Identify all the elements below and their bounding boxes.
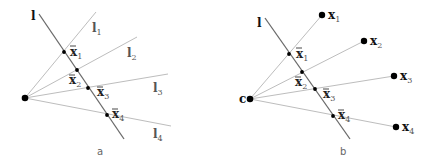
endpoint-x4 xyxy=(393,124,399,130)
svg-text:x4: x4 xyxy=(112,107,124,123)
endpoint-x3 xyxy=(391,73,397,79)
point-label-1: x1 xyxy=(70,45,82,61)
point-label-2: x2 xyxy=(295,75,307,91)
intersection-point-3 xyxy=(86,86,90,90)
center-point xyxy=(22,95,29,102)
svg-text:x3: x3 xyxy=(323,87,335,103)
point-label-4: x4 xyxy=(338,108,350,124)
ray-label-3: l3 xyxy=(153,81,163,97)
intersection-point-4 xyxy=(105,113,109,117)
center-label-c: c xyxy=(239,92,246,106)
ray-label-4: l4 xyxy=(153,127,163,143)
point-label-4: x4 xyxy=(112,107,124,123)
svg-text:x3: x3 xyxy=(97,85,109,101)
point-label-2: x2 xyxy=(69,73,81,89)
svg-text:x2: x2 xyxy=(295,75,307,91)
intersection-point-1 xyxy=(287,52,291,56)
svg-text:x4: x4 xyxy=(338,108,350,124)
intersection-point-2 xyxy=(300,70,304,74)
point-label-1: x1 xyxy=(296,47,308,63)
svg-text:x2: x2 xyxy=(69,73,81,89)
panel-a: l l1 l2 l3 l4 x1 x2 x3 x4 a xyxy=(22,9,171,157)
endpoint-x1 xyxy=(319,12,325,18)
endpoint-label-3: x3 xyxy=(400,69,412,85)
ray-l4 xyxy=(25,98,171,126)
point-label-3: x3 xyxy=(97,85,109,101)
ray-label-2: l2 xyxy=(127,46,137,62)
diagram: l l1 l2 l3 l4 x1 x2 x3 x4 a xyxy=(0,0,433,163)
endpoint-label-4: x4 xyxy=(402,120,414,136)
ray-4 xyxy=(250,99,396,127)
intersection-point-3 xyxy=(313,87,317,91)
center-point-c xyxy=(247,96,254,103)
intersection-point-4 xyxy=(331,114,335,118)
svg-text:x1: x1 xyxy=(70,45,82,61)
ray-l1 xyxy=(25,12,96,98)
ray-label-1: l1 xyxy=(92,21,102,37)
intersection-point-1 xyxy=(62,50,66,54)
main-line-label: l xyxy=(257,16,262,30)
endpoint-label-1: x1 xyxy=(328,8,340,24)
endpoint-label-2: x2 xyxy=(370,34,382,50)
main-line-label: l xyxy=(31,9,36,23)
svg-text:x1: x1 xyxy=(296,47,308,63)
endpoint-x2 xyxy=(361,38,367,44)
caption-b: b xyxy=(340,146,346,157)
point-label-3: x3 xyxy=(323,87,335,103)
caption-a: a xyxy=(97,146,103,157)
panel-b: l c x1 x2 x3 x4 x1 x2 x3 x4 b xyxy=(239,8,414,157)
intersection-point-2 xyxy=(75,68,79,72)
